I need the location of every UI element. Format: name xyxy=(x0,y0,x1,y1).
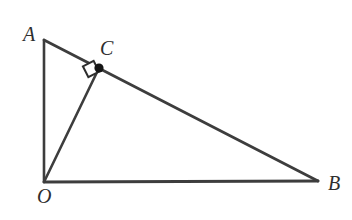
geometry-figure: A C O B xyxy=(0,0,352,220)
vertex-label-c: C xyxy=(100,38,113,58)
triangle-diagram-canvas xyxy=(0,0,352,220)
vertex-label-b: B xyxy=(328,173,340,193)
vertex-label-o: O xyxy=(37,186,51,206)
segment-AB xyxy=(44,40,318,181)
segment-OB xyxy=(44,181,318,182)
vertex-label-a: A xyxy=(23,24,35,44)
point-c-dot xyxy=(94,63,103,72)
segment-OC xyxy=(44,68,99,182)
